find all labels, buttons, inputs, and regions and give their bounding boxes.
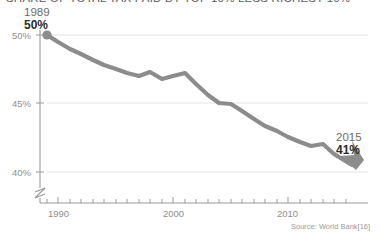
- annotation-start-value: 50%: [24, 19, 50, 32]
- x-tick-label-2000: 2000: [163, 208, 184, 219]
- x-tick-label-1990: 1990: [48, 208, 69, 219]
- y-axis-break-icon: [35, 188, 45, 198]
- x-axis-minor-ticks: [47, 197, 346, 203]
- annotation-start-year: 1989: [24, 6, 50, 18]
- annotation-end: 2015 41%: [336, 131, 362, 157]
- y-tick-label-45: 45%: [5, 98, 31, 109]
- annotation-end-year: 2015: [336, 131, 362, 143]
- x-tick-label-2010: 2010: [277, 208, 298, 219]
- annotation-end-value: 41%: [336, 144, 362, 157]
- chart-plot-area: [0, 0, 380, 237]
- source-note: Source: World Bank[16]: [291, 222, 370, 231]
- data-line-share: [47, 35, 352, 165]
- annotation-start: 1989 50%: [24, 6, 50, 32]
- y-tick-label-40: 40%: [5, 167, 31, 178]
- chart-container: SHARE OF TOTAL TAX PAID BY TOP 10% LESS …: [0, 0, 380, 237]
